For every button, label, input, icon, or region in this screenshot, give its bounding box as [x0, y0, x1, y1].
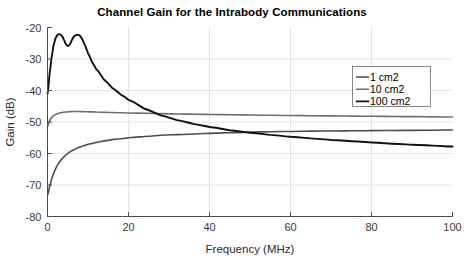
x-tick-label: 100 [443, 221, 461, 233]
x-tick-label: 40 [203, 221, 215, 233]
plot-canvas: 020406080100 -20-30-40-50-60-70-80 1 cm2… [0, 0, 464, 267]
x-tick-label: 20 [122, 221, 134, 233]
x-tick-label: 0 [44, 221, 50, 233]
x-tick-labels: 020406080100 [44, 221, 461, 233]
legend-label-2[interactable]: 100 cm2 [370, 95, 410, 107]
data-curves [48, 34, 453, 195]
y-axis-title: Gain (dB) [4, 97, 16, 146]
series-line-1 [48, 112, 453, 127]
y-tick-label: -80 [26, 211, 42, 223]
y-tick-label: -20 [26, 22, 42, 34]
chart-figure: Channel Gain for the Intrabody Communica… [0, 0, 464, 267]
y-tick-label: -40 [26, 85, 42, 97]
y-tick-label: -60 [26, 148, 42, 160]
y-tick-label: -70 [26, 179, 42, 191]
x-tick-label: 80 [365, 221, 377, 233]
legend-label-0[interactable]: 1 cm2 [370, 71, 399, 83]
y-tick-labels: -20-30-40-50-60-70-80 [26, 22, 42, 223]
x-axis-title: Frequency (MHz) [206, 243, 295, 255]
y-tick-label: -50 [26, 116, 42, 128]
legend-label-1[interactable]: 10 cm2 [370, 83, 405, 95]
legend[interactable]: 1 cm210 cm2100 cm2 [353, 67, 431, 108]
gridlines [48, 28, 453, 217]
y-tick-label: -30 [26, 53, 42, 65]
x-tick-label: 60 [284, 221, 296, 233]
